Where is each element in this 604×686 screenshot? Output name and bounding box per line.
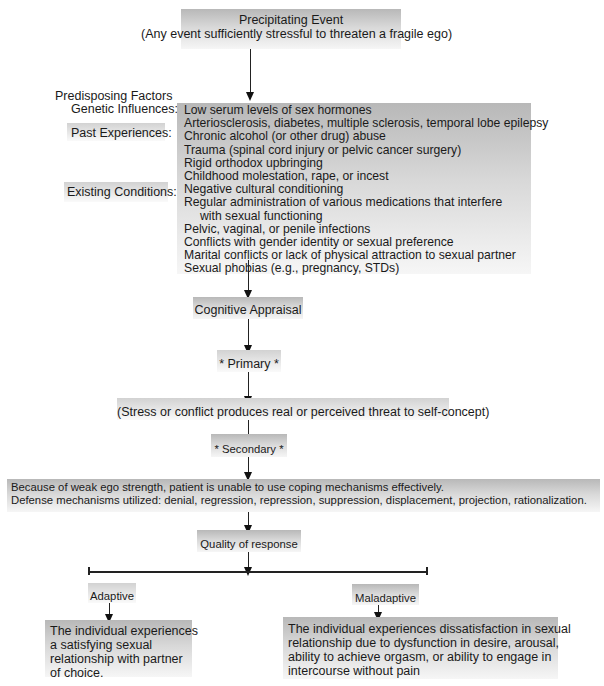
arrow-down-icon xyxy=(246,92,254,101)
cognitive-appraisal-label: Cognitive Appraisal xyxy=(194,303,301,317)
maladaptive-label-box: Maladaptive xyxy=(352,584,419,605)
existing-conditions-label: Existing Conditions: xyxy=(67,185,177,199)
maladaptive-outcome-box: The individual experiences dissatisfacti… xyxy=(283,617,558,679)
precipitating-event-subtitle: (Any event sufficiently stressful to thr… xyxy=(141,27,441,41)
adaptive-outcome-line: relationship with partner xyxy=(50,652,192,666)
continuum-right-tick xyxy=(426,567,428,575)
genetic-influences-label: Genetic Influences: xyxy=(71,102,178,116)
quality-of-response-box: Quality of response xyxy=(197,530,301,552)
factor-item: Chronic alcohol (or other drug) abuse xyxy=(184,130,531,143)
maladaptive-label: Maladaptive xyxy=(355,592,416,604)
secondary-result-line1: Because of weak ego strength, patient is… xyxy=(11,481,600,494)
response-continuum-line xyxy=(89,571,427,573)
connector-line xyxy=(248,319,249,348)
factor-item: Regular administration of various medica… xyxy=(184,196,531,209)
maladaptive-outcome-line: intercourse without pain xyxy=(288,664,558,678)
connector-line xyxy=(248,372,249,399)
connector-line xyxy=(248,260,249,292)
factor-item: Trauma (spinal cord injury or pelvic can… xyxy=(184,144,531,157)
primary-label: * Primary * xyxy=(219,357,279,371)
factor-item: Sexual phobias (e.g., pregnancy, STDs) xyxy=(184,262,531,275)
maladaptive-outcome-line: The individual experiences dissatisfacti… xyxy=(288,622,558,636)
cognitive-appraisal-box: Cognitive Appraisal xyxy=(193,297,303,319)
continuum-left-tick xyxy=(88,567,90,575)
adaptive-outcome-line: The individual experiences xyxy=(50,624,192,638)
adaptive-outcome-box: The individual experiences a satisfying … xyxy=(45,620,192,677)
past-experiences-label: Past Experiences: xyxy=(71,126,172,140)
predisposing-factors-list: Low serum levels of sex hormones Arterio… xyxy=(184,104,531,276)
secondary-box: * Secondary * xyxy=(211,434,287,457)
adaptive-outcome-line: of choice. xyxy=(50,666,192,680)
adaptive-outcome-line: a satisfying sexual xyxy=(50,638,192,652)
primary-result-box: (Stress or conflict produces real or per… xyxy=(117,398,449,420)
precipitating-event-box: Precipitating Event (Any event sufficien… xyxy=(181,9,401,49)
quality-of-response-label: Quality of response xyxy=(200,538,297,550)
primary-result-text: (Stress or conflict produces real or per… xyxy=(117,405,489,419)
maladaptive-outcome-line: ability to achieve orgasm, or ability to… xyxy=(288,650,558,664)
secondary-label: * Secondary * xyxy=(214,443,283,455)
factor-item: with sexual functioning xyxy=(184,210,531,223)
predisposing-factors-heading: Predisposing Factors xyxy=(55,89,172,103)
secondary-result-box: Because of weak ego strength, patient is… xyxy=(7,479,600,512)
primary-box: * Primary * xyxy=(217,350,281,372)
adaptive-label: Adaptive xyxy=(90,590,134,602)
adaptive-label-box: Adaptive xyxy=(88,583,136,603)
connector-line xyxy=(250,49,251,93)
maladaptive-outcome-line: relationship due to dysfunction in desir… xyxy=(288,636,558,650)
secondary-result-line2: Defense mechanisms utilized: denial, reg… xyxy=(11,494,600,507)
precipitating-event-title: Precipitating Event xyxy=(181,13,401,27)
predisposing-factors-box: Low serum levels of sex hormones Arterio… xyxy=(177,103,531,274)
